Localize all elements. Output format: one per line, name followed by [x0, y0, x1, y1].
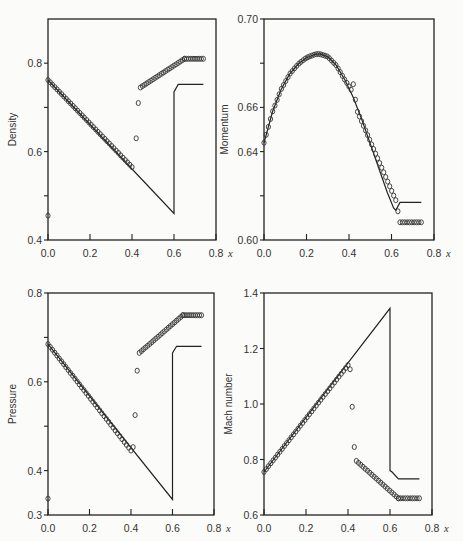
numerical-solution-markers — [262, 363, 422, 501]
x-tick-label: 0.8 — [427, 247, 442, 259]
plot-frame — [48, 19, 216, 240]
x-tick-label: 0.2 — [82, 522, 97, 534]
x-tick-label: 0.2 — [299, 247, 314, 259]
exact-solution-line — [48, 344, 202, 499]
exact-solution-line — [48, 80, 203, 214]
y-axis-label: Mach number — [223, 373, 234, 435]
y-tick-label: 0.6 — [243, 509, 258, 521]
x-tick-label: 0.4 — [342, 247, 357, 259]
x-axis-label: x — [225, 523, 231, 534]
x-tick-label: 0.2 — [83, 247, 98, 259]
panel-density: 0.00.20.40.60.8x0.40.60.8Density — [7, 19, 233, 259]
y-tick-label: 0.64 — [238, 146, 259, 158]
figure-four-panel-shock-tube: 0.00.20.40.60.8x0.40.60.8Density0.00.20.… — [0, 0, 463, 541]
x-axis-label: x — [445, 248, 451, 259]
x-tick-label: 0.0 — [41, 522, 56, 534]
y-tick-label: 1.2 — [243, 343, 258, 355]
y-axis-label: Pressure — [7, 384, 18, 424]
x-tick-label: 0.8 — [425, 522, 440, 534]
x-tick-label: 0.6 — [383, 522, 398, 534]
numerical-solution-markers — [46, 56, 206, 218]
exact-solution-line — [264, 308, 419, 479]
x-tick-label: 0.6 — [167, 247, 182, 259]
x-tick-label: 0.6 — [165, 522, 180, 534]
y-tick-label: 0.70 — [238, 13, 259, 25]
plot-frame — [264, 19, 434, 240]
y-tick-label: 0.4 — [27, 234, 42, 246]
y-axis-label: Momentum — [219, 104, 230, 154]
x-tick-label: 0.0 — [257, 522, 272, 534]
numerical-solution-markers — [262, 52, 424, 225]
x-tick-label: 0.6 — [384, 247, 399, 259]
y-tick-label: 0.8 — [243, 454, 258, 466]
y-tick-label: 0.3 — [27, 509, 42, 521]
panel-pressure: 0.00.20.40.60.8x0.30.40.60.8Pressure — [7, 287, 231, 534]
numerical-solution-markers — [46, 313, 204, 501]
panel-mach: 0.00.20.40.60.8x0.60.81.01.21.4Mach numb… — [223, 287, 449, 534]
y-tick-label: 1.4 — [243, 287, 258, 299]
panel-momentum: 0.00.20.40.60.8x0.600.640.660.70Momentum — [219, 13, 451, 259]
y-tick-label: 1.0 — [243, 398, 258, 410]
plot-frame — [48, 293, 214, 515]
x-tick-label: 0.0 — [41, 247, 56, 259]
y-tick-label: 0.6 — [27, 146, 42, 158]
x-tick-label: 0.8 — [209, 247, 224, 259]
y-tick-label: 0.66 — [238, 101, 259, 113]
x-tick-label: 0.0 — [257, 247, 272, 259]
x-tick-label: 0.4 — [124, 522, 139, 534]
x-tick-label: 0.8 — [207, 522, 222, 534]
y-tick-label: 0.4 — [27, 465, 42, 477]
plot-canvas: 0.00.20.40.60.8x0.40.60.8Density0.00.20.… — [0, 0, 463, 541]
y-axis-label: Density — [7, 113, 18, 146]
x-axis-label: x — [443, 523, 449, 534]
y-tick-label: 0.6 — [27, 376, 42, 388]
plot-frame — [264, 293, 432, 515]
y-tick-label: 0.8 — [27, 287, 42, 299]
x-axis-label: x — [227, 248, 233, 259]
y-tick-label: 0.60 — [238, 234, 259, 246]
x-tick-label: 0.2 — [299, 522, 314, 534]
y-tick-label: 0.8 — [27, 57, 42, 69]
x-tick-label: 0.4 — [341, 522, 356, 534]
x-tick-label: 0.4 — [125, 247, 140, 259]
